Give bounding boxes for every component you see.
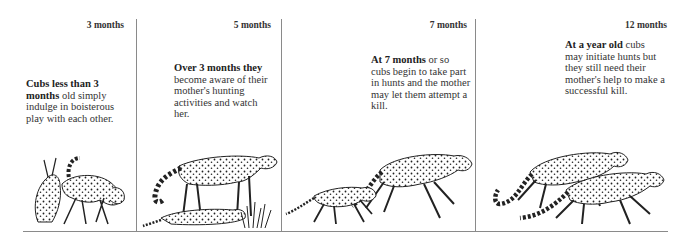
caption: At 7 months or so cubs begin to take par… bbox=[371, 54, 471, 112]
two-cheetahs-sprinting-icon bbox=[490, 146, 676, 226]
caption-bold: Over 3 months they bbox=[174, 62, 262, 73]
caption: At a year old cubs may initiate hunts bu… bbox=[565, 39, 665, 97]
age-label: 12 months bbox=[625, 20, 667, 30]
mother-and-cub-running-icon bbox=[284, 148, 474, 226]
mother-and-crouching-cub-icon bbox=[141, 146, 281, 230]
panel-5-months: 5 months Over 3 months they become aware… bbox=[137, 0, 281, 232]
baseline-rule bbox=[23, 231, 668, 232]
panel-7-months: 7 months At 7 months or so cubs begin to… bbox=[282, 0, 475, 232]
age-label: 3 months bbox=[87, 20, 124, 30]
panel-3-months: 3 months Cubs less than 3 months old sim… bbox=[0, 0, 136, 232]
panel-12-months: 12 months At a year old cubs may initiat… bbox=[476, 0, 695, 232]
caption-bold: At a year old bbox=[565, 39, 623, 50]
caption: Over 3 months they become aware of their… bbox=[174, 62, 274, 120]
two-cubs-playing-icon bbox=[30, 152, 130, 230]
age-label: 5 months bbox=[234, 20, 271, 30]
caption-bold: At 7 months bbox=[371, 54, 426, 65]
caption: Cubs less than 3 months old simply indul… bbox=[26, 78, 126, 124]
caption-text: become aware of their mother's hunting a… bbox=[174, 74, 268, 120]
age-label: 7 months bbox=[430, 20, 467, 30]
